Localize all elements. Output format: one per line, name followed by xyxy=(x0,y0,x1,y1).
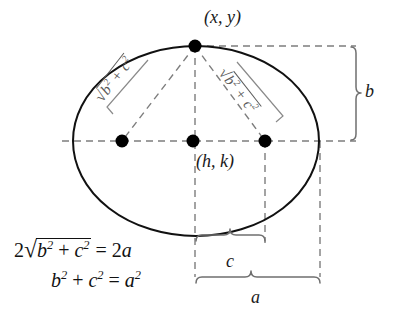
point-top-vertex xyxy=(189,40,202,53)
equation-2-equals: = xyxy=(104,269,125,291)
brace-b xyxy=(351,47,361,140)
equation-1-equals: = xyxy=(91,239,112,261)
equation-1-c: c xyxy=(74,239,83,261)
equation-2-plus: + xyxy=(67,269,88,291)
point-label-xy: (x, y) xyxy=(204,8,241,26)
equation-1-b: b xyxy=(37,239,47,261)
point-label-hk: (h, k) xyxy=(196,152,234,170)
equation-block: 2√b2 + c2 = 2a b2 + c2 = a2 xyxy=(14,236,184,292)
equation-line-1: 2√b2 + c2 = 2a xyxy=(14,236,184,263)
brace-c xyxy=(196,229,265,241)
equation-1-rhs-coefficient: 2 xyxy=(112,239,122,261)
equation-1-rhs-var: a xyxy=(122,239,132,261)
dimension-label-c: c xyxy=(226,252,234,270)
equation-1-coefficient: 2 xyxy=(14,239,24,261)
equation-line-2: b2 + c2 = a2 xyxy=(14,268,184,292)
point-center xyxy=(187,135,200,148)
point-focus-right xyxy=(259,135,272,148)
ellipse-geometry-figure: (x, y) (h, k) b c a √b2 + c2 √b2 + c2 2√… xyxy=(0,0,393,324)
dimension-label-a: a xyxy=(251,288,260,306)
point-focus-left xyxy=(116,135,129,148)
equation-1-radical-bar: b2 + c2 xyxy=(36,238,91,261)
equation-2-a-exponent: 2 xyxy=(135,268,141,282)
equation-2-c: c xyxy=(88,269,97,291)
equation-1-radical-sign: √ xyxy=(24,236,37,262)
equation-1-c-exponent: 2 xyxy=(83,238,89,252)
equation-2-a: a xyxy=(125,269,135,291)
equation-2-b: b xyxy=(51,269,61,291)
dimension-label-b: b xyxy=(365,82,374,100)
brace-a xyxy=(196,271,320,283)
equation-1-plus: + xyxy=(53,239,74,261)
